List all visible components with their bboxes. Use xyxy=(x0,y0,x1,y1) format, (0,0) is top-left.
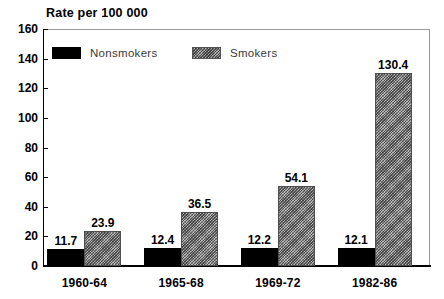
x-axis-category-label: 1965-68 xyxy=(136,276,226,290)
bar-value-label: 11.7 xyxy=(41,235,90,247)
bar-smokers-1969-72 xyxy=(278,186,315,266)
y-axis-tick-label: 40 xyxy=(5,201,38,213)
bar-value-label: 130.4 xyxy=(369,59,418,71)
y-axis-tick-label-wrap: 20 xyxy=(0,230,38,242)
y-axis-tick-label-wrap: 100 xyxy=(0,112,38,124)
bar-nonsmokers-1960-64 xyxy=(47,249,84,266)
bar-value-label: 36.5 xyxy=(175,198,224,210)
chart-title: Rate per 100 000 xyxy=(46,6,148,20)
bar-chart: Rate per 100 000 020406080100120140160 N… xyxy=(0,0,444,299)
y-axis-tick xyxy=(43,266,48,267)
y-axis-tick-label: 80 xyxy=(5,142,38,154)
y-axis-tick-label: 120 xyxy=(5,82,38,94)
y-axis-tick-label-wrap: 120 xyxy=(0,82,38,94)
y-axis-tick-label-wrap: 80 xyxy=(0,142,38,154)
y-axis-tick-label-wrap: 160 xyxy=(0,23,38,35)
y-axis-tick-label: 60 xyxy=(5,171,38,183)
bar-value-label: 23.9 xyxy=(78,217,127,229)
bar-value-label: 12.2 xyxy=(235,234,284,246)
bars-layer: 11.723.912.436.512.254.112.1130.4 xyxy=(44,30,430,266)
y-axis-tick-label-wrap: 60 xyxy=(0,171,38,183)
bar-value-label: 12.4 xyxy=(138,234,187,246)
bar-nonsmokers-1969-72 xyxy=(241,248,278,266)
bar-smokers-1960-64 xyxy=(84,231,121,266)
y-axis-tick-label-wrap: 140 xyxy=(0,53,38,65)
x-axis-category-label: 1982-86 xyxy=(330,276,420,290)
x-axis-category-label: 1960-64 xyxy=(39,276,129,290)
bar-smokers-1982-86 xyxy=(375,73,412,266)
y-axis-tick-label-wrap: 40 xyxy=(0,201,38,213)
y-axis-tick-label: 0 xyxy=(5,260,38,272)
bar-nonsmokers-1982-86 xyxy=(338,248,375,266)
bar-value-label: 12.1 xyxy=(332,234,381,246)
y-axis-tick-label-wrap: 0 xyxy=(0,260,38,272)
y-axis-tick-label: 20 xyxy=(5,230,38,242)
bar-nonsmokers-1965-68 xyxy=(144,248,181,266)
bar-smokers-1965-68 xyxy=(181,212,218,266)
y-axis-tick-label: 160 xyxy=(5,23,38,35)
y-axis-tick-label: 100 xyxy=(5,112,38,124)
bar-value-label: 54.1 xyxy=(272,172,321,184)
y-axis-tick-label: 140 xyxy=(5,53,38,65)
x-axis-category-label: 1969-72 xyxy=(233,276,323,290)
